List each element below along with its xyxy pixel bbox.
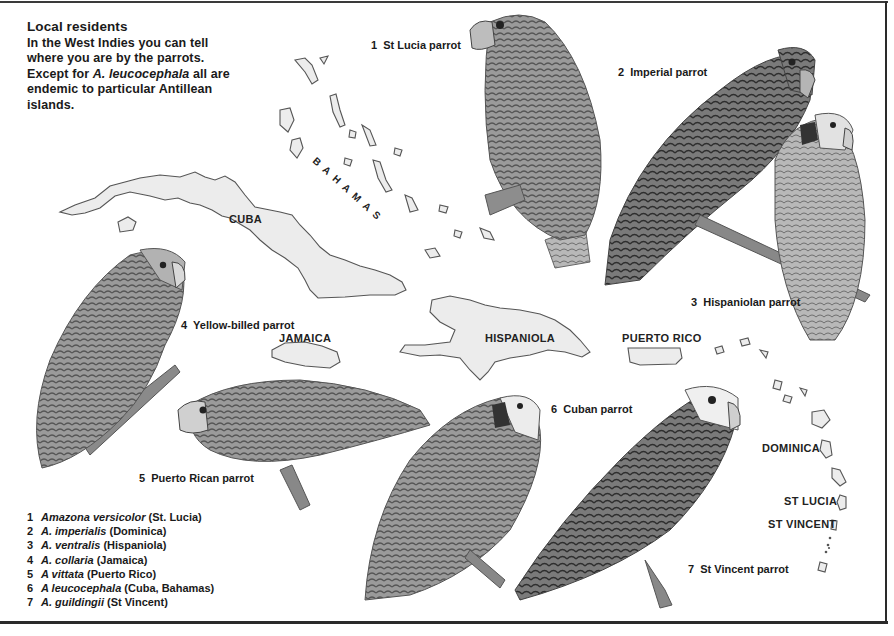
parrot-st-lucia-illustration: [470, 15, 601, 268]
legend-row: 1Amazona versicolor (St. Lucia): [27, 510, 214, 524]
species-legend: 1Amazona versicolor (St. Lucia) 2A. impe…: [27, 510, 214, 609]
intro-title: Local residents: [27, 19, 247, 35]
island-puerto-rico: [628, 348, 682, 365]
island-dominica: [820, 440, 832, 458]
grenadines: [825, 537, 832, 554]
island-jamaica: [272, 342, 340, 368]
parrot-label-2: 2 Imperial parrot: [618, 66, 707, 78]
place-label-hispaniola: HISPANIOLA: [485, 332, 555, 344]
place-label-st-lucia: ST LUCIA: [784, 495, 837, 507]
place-label-cuba: CUBA: [229, 213, 262, 225]
parrot-label-7: 7 St Vincent parrot: [688, 563, 789, 575]
parrot-label-4: 4 Yellow-billed parrot: [181, 319, 295, 331]
island-isle-of-youth: [118, 217, 136, 232]
place-label-jamaica: JAMAICA: [279, 332, 331, 344]
parrot-yellow-billed-illustration: [37, 249, 186, 469]
island-st-lucia: [837, 495, 846, 510]
legend-row: 4A. collaria (Jamaica): [27, 553, 214, 567]
legend-row: 6A leucocephala (Cuba, Bahamas): [27, 581, 214, 595]
intro-body-species: A. leucocephala: [93, 67, 190, 81]
legend-row: 3A. ventralis (Hispaniola): [27, 538, 214, 552]
intro-body: In the West Indies you can tell where yo…: [27, 36, 247, 114]
legend-row: 7A. guildingii (St Vincent): [27, 595, 214, 609]
place-label-dominica: DOMINICA: [762, 442, 820, 454]
legend-row: 2A. imperialis (Dominica): [27, 524, 214, 538]
parrot-label-5: 5 Puerto Rican parrot: [139, 472, 254, 484]
place-label-st-vincent: ST VINCENT: [768, 518, 836, 530]
parrot-label-6: 6 Cuban parrot: [551, 403, 632, 415]
parrot-label-3: 3 Hispaniolan parrot: [691, 296, 800, 308]
place-label-puerto-rico: PUERTO RICO: [622, 332, 702, 344]
legend-row: 5A vittata (Puerto Rico): [27, 567, 214, 581]
intro-text-block: Local residents In the West Indies you c…: [27, 19, 247, 113]
parrot-label-1: 1 St Lucia parrot: [371, 39, 461, 51]
